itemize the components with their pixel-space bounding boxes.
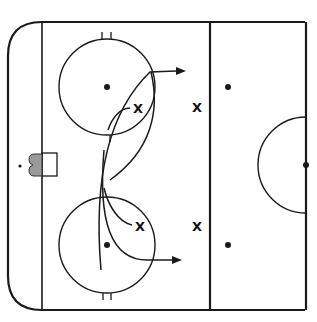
player-x-3: X xyxy=(135,219,145,234)
goal-dot xyxy=(18,164,21,167)
hockey-rink-diagram: X X X X xyxy=(0,0,317,322)
neutral-dot xyxy=(225,242,231,248)
neutral-dot xyxy=(225,84,231,90)
player-x-2: X xyxy=(192,100,202,115)
skate-path-connector xyxy=(110,72,154,180)
faceoff-dot xyxy=(104,84,110,90)
player-x-4: X xyxy=(192,219,202,234)
skate-path-bottom xyxy=(103,150,172,260)
arrow-bottom xyxy=(172,256,182,264)
center-circle xyxy=(258,117,306,213)
skate-path-x3 xyxy=(104,188,132,225)
rink-boards xyxy=(8,22,305,310)
goal-net xyxy=(29,154,42,176)
skate-path-x1 xyxy=(108,108,130,130)
faceoff-dot xyxy=(104,242,110,248)
player-x-1: X xyxy=(133,101,143,116)
arrow-top xyxy=(176,67,186,75)
goal-crease xyxy=(42,153,57,176)
center-dot xyxy=(303,162,309,168)
